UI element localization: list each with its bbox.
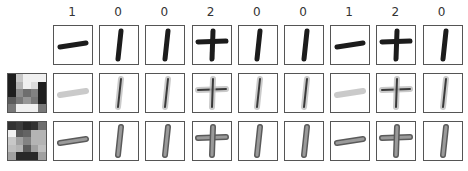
filter-pixel — [8, 130, 16, 138]
image-cell-plus — [376, 121, 416, 161]
filter-pixel — [16, 89, 24, 97]
column-label: 0 — [283, 5, 323, 19]
image-cell-plus — [192, 25, 232, 65]
filter-pixel — [38, 89, 46, 97]
image-cell-bar — [145, 73, 185, 113]
filter-pixel — [23, 104, 31, 112]
filter-pixel — [16, 104, 24, 112]
filter-pixel — [31, 74, 39, 82]
image-cell-bar — [99, 25, 139, 65]
image-cell-bar — [284, 25, 324, 65]
filter-pixel — [31, 145, 39, 153]
filter-pixel — [8, 74, 16, 82]
image-cell-bar — [284, 121, 324, 161]
column-label: 2 — [375, 5, 415, 19]
filter-pixel — [38, 152, 46, 160]
filter-pixel — [31, 130, 39, 138]
filter-pixel — [38, 122, 46, 130]
image-cell-plus — [192, 73, 232, 113]
image-cell-bar — [99, 121, 139, 161]
filter-pixel — [38, 74, 46, 82]
filter-b-grid — [7, 121, 47, 161]
column-label: 1 — [52, 5, 92, 19]
filter-pixel — [31, 97, 39, 105]
filter-pixel — [8, 97, 16, 105]
filter-pixel — [16, 74, 24, 82]
image-cell-minus — [330, 25, 370, 65]
filter-pixel — [31, 152, 39, 160]
image-cell-plus — [192, 121, 232, 161]
filter-pixel — [38, 82, 46, 90]
image-cell-minus — [330, 73, 370, 113]
filter-pixel — [23, 145, 31, 153]
image-cell-minus — [53, 73, 93, 113]
filter-pixel — [16, 82, 24, 90]
filter-pixel — [31, 89, 39, 97]
filter-pixel — [38, 137, 46, 145]
filter-pixel — [31, 82, 39, 90]
filter-pixel — [23, 97, 31, 105]
filter-pixel — [23, 130, 31, 138]
filter-pixel — [16, 137, 24, 145]
filter-pixel — [16, 97, 24, 105]
column-label: 0 — [98, 5, 138, 19]
image-cell-bar — [238, 25, 278, 65]
filter-pixel — [31, 104, 39, 112]
image-cell-bar — [423, 73, 463, 113]
image-cell-plus — [376, 25, 416, 65]
image-cell-minus — [330, 121, 370, 161]
filter-pixel — [16, 152, 24, 160]
filter-pixel — [38, 145, 46, 153]
filter-pixel — [38, 104, 46, 112]
image-cell-bar — [423, 25, 463, 65]
column-label: 0 — [144, 5, 184, 19]
image-cell-bar — [145, 121, 185, 161]
filter-pixel — [23, 74, 31, 82]
filter-a-grid — [7, 73, 47, 113]
image-cell-bar — [145, 25, 185, 65]
filter-pixel — [31, 122, 39, 130]
column-label: 0 — [422, 5, 462, 19]
filter-pixel — [8, 104, 16, 112]
filter-pixel — [23, 152, 31, 160]
filter-pixel — [8, 82, 16, 90]
filter-pixel — [38, 97, 46, 105]
image-cell-bar — [238, 73, 278, 113]
filter-pixel — [23, 122, 31, 130]
filter-pixel — [16, 122, 24, 130]
filter-pixel — [8, 145, 16, 153]
filter-pixel — [8, 122, 16, 130]
filter-pixel — [23, 89, 31, 97]
image-cell-bar — [284, 73, 324, 113]
image-cell-minus — [53, 121, 93, 161]
image-cell-minus — [53, 25, 93, 65]
image-cell-bar — [423, 121, 463, 161]
filter-pixel — [16, 145, 24, 153]
image-cell-bar — [238, 121, 278, 161]
filter-pixel — [8, 152, 16, 160]
filter-pixel — [16, 130, 24, 138]
filter-pixel — [31, 137, 39, 145]
filter-pixel — [8, 137, 16, 145]
column-label: 2 — [191, 5, 231, 19]
column-label: 1 — [329, 5, 369, 19]
image-cell-bar — [99, 73, 139, 113]
filter-pixel — [38, 130, 46, 138]
filter-pixel — [8, 89, 16, 97]
image-cell-plus — [376, 73, 416, 113]
column-label: 0 — [237, 5, 277, 19]
filter-pixel — [23, 137, 31, 145]
filter-pixel — [23, 82, 31, 90]
